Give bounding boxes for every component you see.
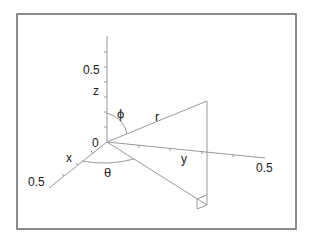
y-axis-label: y bbox=[181, 152, 187, 166]
z-axis-label: z bbox=[93, 84, 99, 98]
phi-label: ϕ bbox=[117, 106, 124, 121]
theta-label: θ bbox=[104, 165, 111, 180]
spherical-coordinates-diagram: 0.5 z ϕ r 0 x θ y 0.5 0.5 bbox=[0, 0, 312, 241]
origin-label: 0 bbox=[92, 136, 99, 150]
xy-projection-line bbox=[107, 142, 207, 205]
x-tick-label: 0.5 bbox=[28, 175, 45, 189]
y-tick-label: 0.5 bbox=[256, 161, 273, 175]
z-tick-label: 0.5 bbox=[83, 63, 100, 77]
theta-arc bbox=[82, 159, 134, 163]
x-axis-label: x bbox=[66, 151, 72, 165]
r-label: r bbox=[155, 109, 160, 124]
